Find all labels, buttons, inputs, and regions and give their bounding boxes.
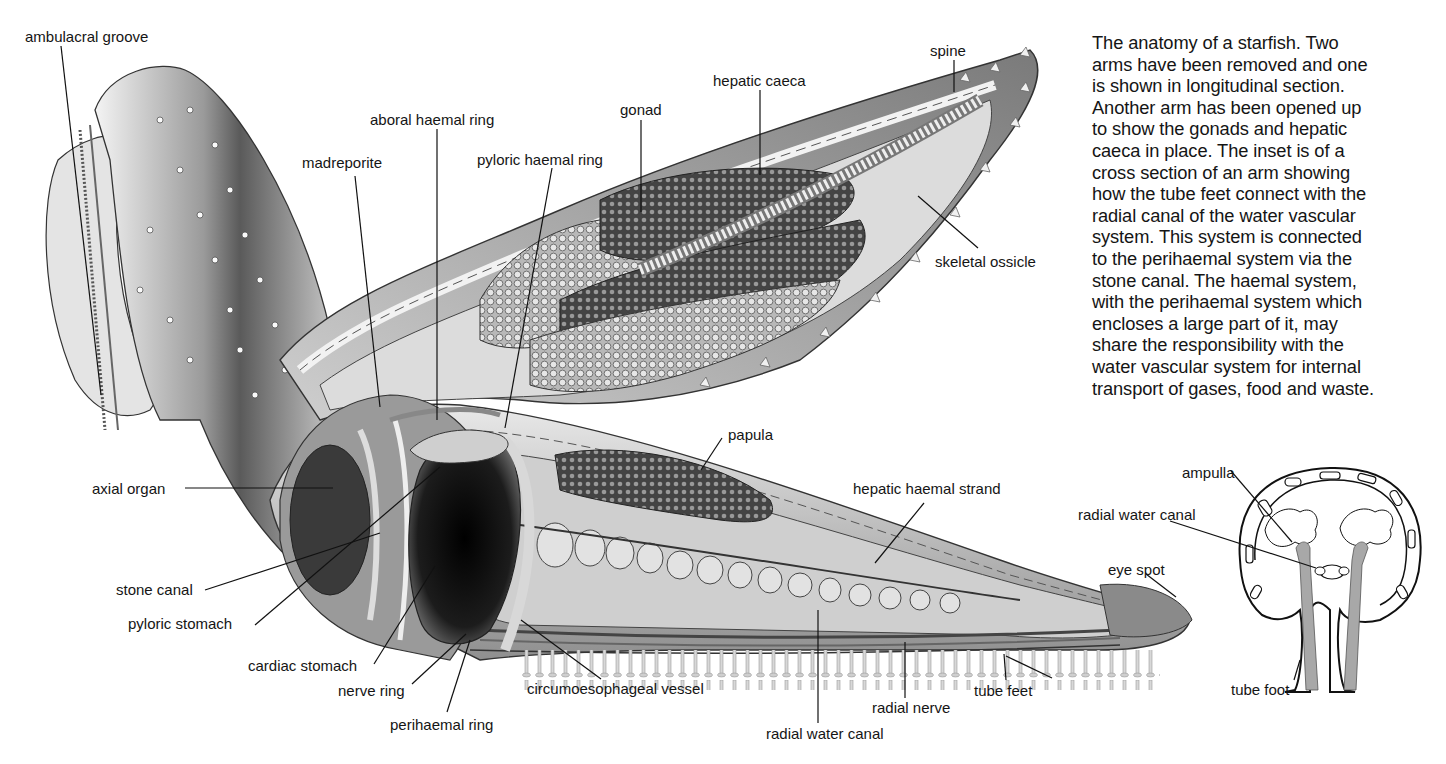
label-axial-organ: axial organ bbox=[92, 480, 165, 497]
caption-line: to the perihaemal system via the bbox=[1092, 248, 1442, 270]
label-gonad: gonad bbox=[620, 101, 662, 118]
caption-line: how the tube feet connect with the bbox=[1092, 183, 1442, 205]
inset-label-tube-foot: tube foot bbox=[1231, 681, 1289, 698]
label-skeletal-ossicle: skeletal ossicle bbox=[935, 253, 1036, 270]
label-hepatic-haemal-strand: hepatic haemal strand bbox=[853, 480, 1001, 497]
caption-line: is shown in longitudinal section. bbox=[1092, 75, 1442, 97]
label-spine: spine bbox=[930, 42, 966, 59]
label-aboral-haemal-ring: aboral haemal ring bbox=[370, 111, 494, 128]
label-pyloric-haemal-ring: pyloric haemal ring bbox=[477, 151, 603, 168]
label-circumoesophageal-vessel: circumoesophageal vessel bbox=[527, 680, 704, 697]
caption-line: system. This system is connected bbox=[1092, 226, 1442, 248]
label-ambulacral-groove: ambulacral groove bbox=[25, 28, 148, 45]
caption-line: cross section of an arm showing bbox=[1092, 162, 1442, 184]
caption-line: radial canal of the water vascular bbox=[1092, 205, 1442, 227]
caption-line: to show the gonads and hepatic bbox=[1092, 118, 1442, 140]
label-perihaemal-ring: perihaemal ring bbox=[390, 716, 493, 733]
label-madreporite: madreporite bbox=[302, 154, 382, 171]
caption-line: encloses a large part of it, may bbox=[1092, 313, 1442, 335]
label-tube-feet: tube feet bbox=[974, 682, 1032, 699]
caption-line: caeca in place. The inset is of a bbox=[1092, 140, 1442, 162]
label-stone-canal: stone canal bbox=[116, 581, 193, 598]
inset-label-radial-water-canal: radial water canal bbox=[1078, 506, 1196, 523]
caption-line: Another arm has been opened up bbox=[1092, 97, 1442, 119]
label-eye-spot: eye spot bbox=[1108, 561, 1165, 578]
caption-line: arms have been removed and one bbox=[1092, 54, 1442, 76]
inset-cross-section bbox=[1240, 468, 1421, 692]
label-pyloric-stomach: pyloric stomach bbox=[128, 615, 232, 632]
caption-line: transport of gases, food and waste. bbox=[1092, 378, 1442, 400]
label-papula: papula bbox=[728, 426, 773, 443]
starfish-anatomy-figure: ambulacral groove madreporite aboral hae… bbox=[0, 0, 1446, 764]
label-cardiac-stomach: cardiac stomach bbox=[248, 657, 357, 674]
caption-line: The anatomy of a starfish. Two bbox=[1092, 32, 1442, 54]
caption-line: water vascular system for internal bbox=[1092, 356, 1442, 378]
figure-caption: The anatomy of a starfish. Two arms have… bbox=[1092, 32, 1442, 399]
label-radial-water-canal: radial water canal bbox=[766, 725, 884, 742]
caption-line: stone canal. The haemal system, bbox=[1092, 270, 1442, 292]
caption-line: with the perihaemal system which bbox=[1092, 291, 1442, 313]
label-nerve-ring: nerve ring bbox=[338, 682, 405, 699]
label-radial-nerve: radial nerve bbox=[872, 699, 950, 716]
label-hepatic-caeca: hepatic caeca bbox=[713, 72, 806, 89]
caption-line: share the responsibility with the bbox=[1092, 334, 1442, 356]
inset-label-ampulla: ampulla bbox=[1182, 464, 1235, 481]
